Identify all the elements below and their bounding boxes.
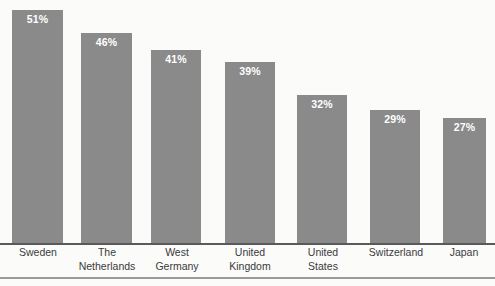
bar — [81, 33, 132, 243]
bottom-rule — [0, 277, 495, 279]
category-label: Switzerland — [350, 246, 442, 260]
bar-value-label: 32% — [297, 99, 347, 110]
category-label: Japan — [433, 246, 495, 260]
bar-chart: 51% 46% 41% 39% 32% 29% 27% Sweden — [0, 0, 495, 286]
x-axis-line — [0, 243, 495, 245]
x-axis-category-labels: Sweden The Netherlands West Germany Unit… — [0, 246, 495, 276]
bar-group: 29% — [370, 110, 420, 243]
bar-group: 41% — [151, 50, 201, 243]
bar-value-label: 51% — [12, 14, 63, 25]
bar-group: 27% — [443, 118, 486, 243]
bar — [12, 10, 63, 243]
bar-value-label: 41% — [151, 54, 201, 65]
bar-value-label: 46% — [81, 37, 132, 48]
plot-area: 51% 46% 41% 39% 32% 29% 27% — [0, 0, 495, 243]
bar-group: 46% — [81, 33, 132, 243]
category-label: United Kingdom — [210, 246, 290, 273]
bar — [297, 95, 347, 243]
bar-group: 39% — [225, 62, 275, 243]
bar-value-label: 27% — [443, 122, 486, 133]
bar-value-label: 29% — [370, 114, 420, 125]
category-label: West Germany — [138, 246, 216, 273]
bar-group: 32% — [297, 95, 347, 243]
bar — [151, 50, 201, 243]
bar — [225, 62, 275, 243]
bar-value-label: 39% — [225, 66, 275, 77]
bar — [443, 118, 486, 243]
bar — [370, 110, 420, 243]
bar-group: 51% — [12, 10, 63, 243]
